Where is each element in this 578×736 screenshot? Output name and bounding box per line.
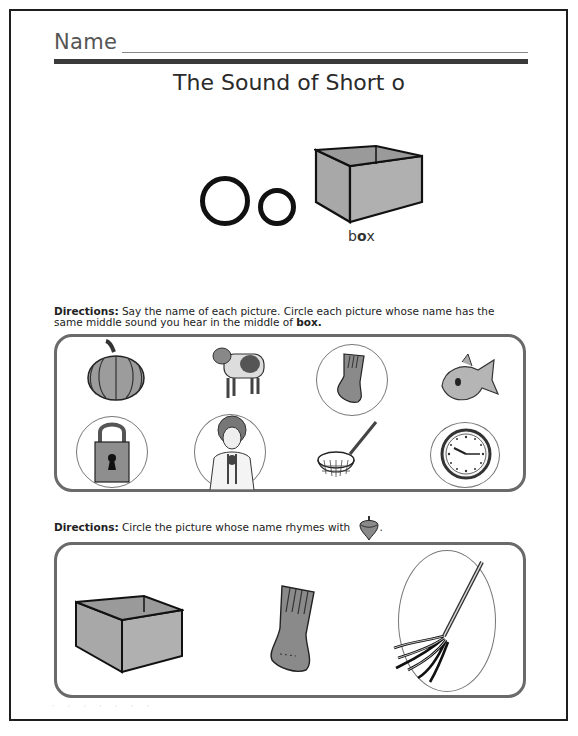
clock-icon[interactable] (440, 428, 492, 480)
name-label: Name (54, 30, 117, 54)
name-input-line[interactable] (122, 52, 528, 53)
footer-marks: · · · · · · · (52, 702, 155, 709)
header-rule (54, 59, 528, 64)
directions-2: Directions: Circle the picture whose nam… (54, 515, 383, 541)
box-icon (314, 144, 426, 224)
page-title: The Sound of Short o (0, 70, 578, 95)
sock-icon[interactable] (334, 352, 370, 404)
box-icon-choice[interactable] (74, 594, 184, 674)
mop-icon[interactable] (390, 558, 490, 688)
doctor-icon[interactable] (202, 414, 260, 490)
spinning-top-icon (358, 515, 380, 541)
fish-icon[interactable] (438, 352, 502, 408)
sock-icon-choice[interactable] (266, 584, 320, 674)
lock-icon[interactable] (92, 418, 132, 484)
uppercase-o (200, 176, 250, 226)
directions-1: Directions: Say the name of each picture… (54, 306, 524, 328)
net-icon[interactable] (316, 420, 380, 484)
key-word: box (348, 228, 375, 244)
cow-icon[interactable] (212, 342, 268, 400)
lowercase-o (258, 188, 296, 226)
name-row: Name (54, 30, 528, 60)
pumpkin-icon[interactable] (84, 338, 148, 402)
